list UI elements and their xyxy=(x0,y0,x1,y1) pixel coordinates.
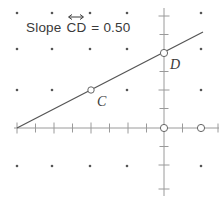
point-x-axis-unit[interactable] xyxy=(197,124,204,131)
segment-name-text: CD xyxy=(66,20,86,35)
point-D[interactable] xyxy=(160,49,167,56)
slope-measurement-label[interactable]: Slope CD = 0.50 xyxy=(26,20,130,35)
grid-dot xyxy=(126,89,129,92)
grid-dot xyxy=(89,165,92,168)
grid-dots xyxy=(16,12,203,168)
grid-dot xyxy=(51,165,54,168)
segment-name-with-arrow: CD xyxy=(65,20,87,35)
grid-dot xyxy=(89,12,92,15)
grid-dot xyxy=(126,165,129,168)
grid-dot xyxy=(16,165,19,168)
grid-dot xyxy=(16,48,19,51)
slope-geometry-figure: Slope CD = 0.50 C D xyxy=(0,0,219,203)
point-origin[interactable] xyxy=(160,124,167,131)
grid-dot xyxy=(200,165,203,168)
y-axis xyxy=(159,8,170,196)
grid-dot xyxy=(126,12,129,15)
point-label-D: D xyxy=(170,57,180,73)
grid-dot xyxy=(16,12,19,15)
x-axis xyxy=(14,123,219,134)
line-CD[interactable] xyxy=(17,32,203,128)
grid-dot xyxy=(89,48,92,51)
grid-dot xyxy=(51,12,54,15)
slope-label-value: = 0.50 xyxy=(87,20,130,35)
grid-dot xyxy=(200,12,203,15)
grid-dot xyxy=(200,89,203,92)
grid-dot xyxy=(16,89,19,92)
grid-dot xyxy=(126,48,129,51)
grid-dot xyxy=(51,48,54,51)
slope-label-prefix: Slope xyxy=(26,20,65,35)
grid-dot xyxy=(51,89,54,92)
point-label-C: C xyxy=(97,94,106,110)
grid-dot xyxy=(200,48,203,51)
point-C[interactable] xyxy=(88,87,94,93)
